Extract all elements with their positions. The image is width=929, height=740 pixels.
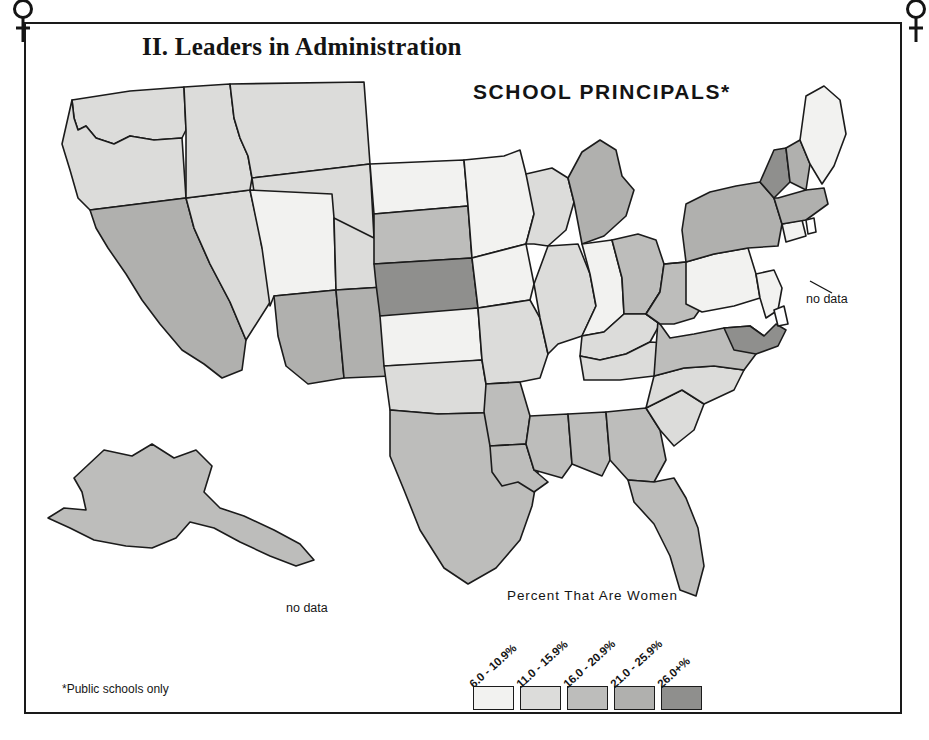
legend-title: Percent That Are Women [507,588,678,603]
state-wi [526,168,574,246]
choropleth-map [34,78,854,623]
state-ne [374,258,478,316]
legend-label-4: 26.0+% [655,655,692,690]
state-ny [682,182,782,262]
venus-symbol-icon-right [901,0,929,44]
legend: Percent That Are Women 6.0 - 10.9%11.0 -… [465,588,725,716]
state-mt [230,82,370,178]
state-de [774,306,788,326]
state-sd [374,206,472,264]
legend-swatch-1 [520,686,561,710]
section-title: II. Leaders in Administration [142,33,462,61]
state-az [274,290,344,384]
legend-swatch-2 [567,686,608,710]
state-ma [774,188,828,224]
state-ak [48,444,314,566]
state-ri [806,218,816,234]
footnote: *Public schools only [62,682,169,696]
state-fl [628,478,704,596]
state-mi [568,140,634,244]
state-al [568,412,610,476]
legend-swatch-4 [661,686,702,710]
state-ms [526,414,572,478]
state-ks [380,308,482,366]
legend-label-0: 6.0 - 10.9% [467,642,519,690]
no-data-label-northeast: no data [806,292,848,306]
state-mo [478,300,548,384]
state-nd [370,160,468,214]
state-ar [484,382,530,446]
no-data-label-hawaii: no data [286,601,328,615]
state-md [724,324,786,354]
legend-swatch-0 [473,686,514,710]
legend-swatch-3 [614,686,655,710]
